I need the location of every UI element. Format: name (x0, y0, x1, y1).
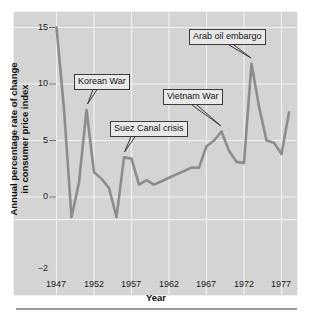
x-tick-1967: 1967 (189, 279, 223, 289)
x-tick-1947: 1947 (39, 279, 73, 289)
x-tick-1977: 1977 (264, 279, 298, 289)
annotation-arab-oil-embargo: Arab oil embargo (189, 29, 266, 45)
x-tick-1957: 1957 (114, 279, 148, 289)
annotation-korean-war: Korean War (74, 74, 130, 90)
y-tick-minus2: −2 (26, 263, 48, 273)
y-axis-title-line2: in consumer price index (19, 84, 30, 193)
annotation-suez-canal-crisis: Suez Canal crisis (110, 121, 188, 137)
x-gridlines (57, 12, 282, 295)
y-tickmarks (49, 28, 56, 198)
x-tick-1952: 1952 (77, 279, 111, 289)
y-tick-15: 15 (26, 22, 48, 32)
x-axis-title: Year (0, 292, 312, 303)
bottom-divider (16, 308, 297, 310)
chart-figure: 15 10 5 0 −2 1947 1952 1957 1962 1967 19… (0, 0, 312, 318)
x-tick-1962: 1962 (152, 279, 186, 289)
annotation-vietnam-war: Vietnam War (163, 89, 223, 105)
x-tick-1972: 1972 (227, 279, 261, 289)
y-axis-title: Annual percentage rate of change in cons… (8, 50, 30, 228)
y-axis-title-line1: Annual percentage rate of change (8, 62, 19, 215)
